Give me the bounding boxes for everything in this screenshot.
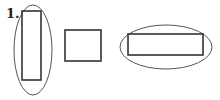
left-ellipse	[14, 5, 52, 95]
right-ellipse	[120, 25, 212, 69]
right-group	[120, 25, 212, 69]
shapes-diagram	[0, 0, 220, 100]
left-group	[14, 5, 52, 95]
square	[65, 30, 101, 61]
wide-rectangle	[128, 34, 203, 55]
tall-rectangle	[22, 11, 41, 80]
